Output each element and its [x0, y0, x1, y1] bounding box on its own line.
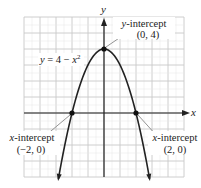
xint-right-title: x-intercept: [152, 132, 198, 143]
equation-label: y = 4 − x2: [39, 53, 81, 65]
parabola-graph: y-intercept (0, 4) y = 4 − x2 x-intercep…: [0, 0, 201, 188]
yint-title: y-intercept: [121, 18, 167, 29]
x-axis-label: x: [190, 106, 196, 118]
xint-left-coords: (−2, 0): [17, 144, 46, 156]
yint-point: [101, 46, 106, 51]
xint-left-point: [69, 110, 74, 115]
xint-right-coords: (2, 0): [164, 144, 187, 156]
y-axis-label: y: [100, 3, 106, 15]
yint-coords: (0, 4): [137, 29, 160, 41]
y-axis-arrow-icon: [101, 18, 107, 26]
xint-left-title: x-intercept: [9, 132, 55, 143]
xint-right-point: [133, 110, 138, 115]
x-axis-arrow-icon: [182, 110, 190, 116]
